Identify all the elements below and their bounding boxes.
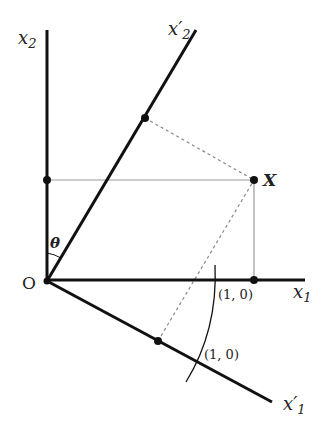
origin-point bbox=[44, 278, 51, 285]
projection-x-to-x2prime bbox=[145, 118, 254, 180]
x2prime-axis-label: x′2 bbox=[168, 18, 191, 42]
projection-x-to-x1prime bbox=[158, 180, 254, 341]
point-x bbox=[250, 176, 258, 184]
theta-arc bbox=[47, 253, 61, 258]
unit-x1prime-label: (1, 0) bbox=[204, 347, 239, 362]
point-on-x1prime bbox=[154, 337, 162, 345]
x2-axis-label: x2 bbox=[18, 27, 36, 51]
point-on-x2prime bbox=[141, 114, 149, 122]
point-on-x1 bbox=[250, 276, 258, 284]
rotated-axes-diagram: x2 x′2 x1 x′1 O X θ (1, 0) (1, 0) bbox=[0, 0, 323, 428]
theta-label: θ bbox=[50, 234, 60, 252]
x1prime-axis-label: x′1 bbox=[283, 393, 306, 417]
point-x-label: X bbox=[262, 170, 277, 190]
unit-x1-label: (1, 0) bbox=[218, 287, 253, 302]
point-on-x2 bbox=[43, 176, 51, 184]
x2prime-axis bbox=[47, 30, 196, 281]
diagram-svg: x2 x′2 x1 x′1 O X θ (1, 0) (1, 0) bbox=[0, 0, 323, 428]
origin-label: O bbox=[22, 273, 36, 293]
x1-axis-label: x1 bbox=[293, 281, 311, 305]
